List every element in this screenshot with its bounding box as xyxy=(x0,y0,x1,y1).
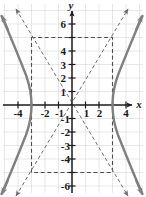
x-tick-label-1: 1 xyxy=(84,107,90,119)
y-tick-label--6: -6 xyxy=(61,180,71,192)
figure-background xyxy=(0,0,146,197)
y-tick-label--1: -1 xyxy=(61,113,70,125)
y-tick-label-6: 6 xyxy=(61,18,67,30)
x-tick-label--4: -4 xyxy=(13,107,23,119)
x-axis-label: x xyxy=(135,98,142,110)
y-tick-label-2: 2 xyxy=(61,72,67,84)
y-tick-label-1: 1 xyxy=(61,86,67,98)
y-tick-label--3: -3 xyxy=(61,140,71,152)
x-tick-label-4: 4 xyxy=(123,107,129,119)
y-tick-label-4: 4 xyxy=(61,45,67,57)
y-axis-label: y xyxy=(67,0,74,11)
hyperbola-graph-figure: -4 -2 -1 1 2 4 6 4 3 2 1 -1 -2 -3 -4 -6 … xyxy=(0,0,146,197)
coordinate-plane-svg: -4 -2 -1 1 2 4 6 4 3 2 1 -1 -2 -3 -4 -6 … xyxy=(0,0,146,197)
y-tick-label-3: 3 xyxy=(61,59,67,71)
x-tick-label-2: 2 xyxy=(97,107,103,119)
x-tick-label--2: -2 xyxy=(40,107,50,119)
y-tick-label--4: -4 xyxy=(61,153,71,165)
y-tick-label--2: -2 xyxy=(61,126,71,138)
